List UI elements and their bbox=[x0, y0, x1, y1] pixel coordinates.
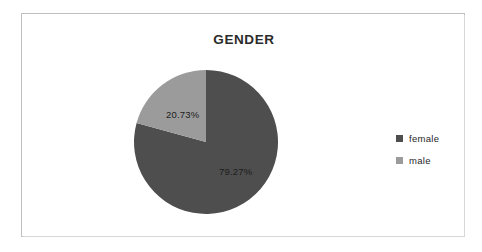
chart-legend: female male bbox=[396, 127, 476, 171]
pie-data-label-female: 79.27% bbox=[219, 166, 252, 177]
chart-title: GENDER bbox=[22, 32, 466, 47]
pie-chart-svg bbox=[133, 69, 279, 215]
legend-swatch-female-icon bbox=[396, 135, 403, 142]
pie-plot-area: 20.73% 79.27% bbox=[133, 69, 279, 215]
legend-label-male: male bbox=[409, 155, 431, 166]
legend-label-female: female bbox=[409, 133, 439, 144]
chart-frame: GENDER 20.73% 79.27% female male bbox=[21, 13, 465, 237]
chart-canvas: GENDER 20.73% 79.27% female male bbox=[0, 0, 482, 252]
legend-swatch-male-icon bbox=[396, 157, 403, 164]
pie-data-label-male: 20.73% bbox=[166, 109, 199, 120]
legend-item-female[interactable]: female bbox=[396, 127, 476, 149]
legend-item-male[interactable]: male bbox=[396, 149, 476, 171]
